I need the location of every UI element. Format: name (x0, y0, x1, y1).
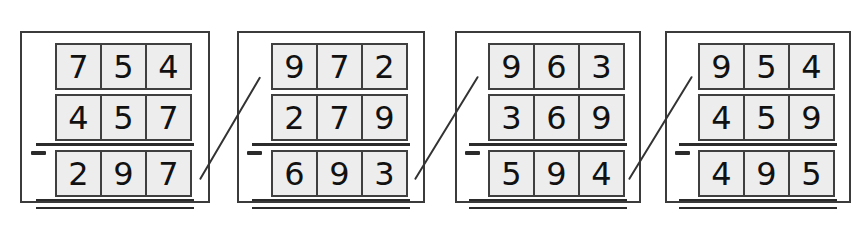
digit-cell[interactable]: 4 (698, 94, 745, 141)
subtraction-problem-3: 9 6 3 3 6 9 5 9 4 (457, 33, 639, 201)
answer-row-4: 4 9 5 (698, 150, 835, 197)
subtraction-problem-4: 9 5 4 4 5 9 4 9 5 (667, 33, 849, 201)
minus-operator-icon-3 (465, 151, 480, 155)
digit-cell[interactable]: 7 (316, 43, 363, 90)
answer-underline-2 (252, 199, 410, 209)
digit-cell[interactable]: 5 (488, 150, 535, 197)
operation-rule-3 (469, 143, 627, 146)
digit-cell[interactable]: 6 (533, 43, 580, 90)
digit-cell[interactable]: 3 (578, 43, 625, 90)
digit-cell[interactable]: 4 (578, 150, 625, 197)
answer-underline-4 (679, 199, 837, 209)
digit-cell[interactable]: 9 (361, 94, 408, 141)
digit-cell[interactable]: 7 (145, 94, 192, 141)
subtrahend-row-3: 3 6 9 (488, 94, 625, 141)
answer-underline-3 (469, 199, 627, 209)
digit-cell[interactable]: 9 (698, 43, 745, 90)
operation-rule-4 (679, 143, 837, 146)
problem-panel-3[interactable]: 9 6 3 3 6 9 5 9 4 (455, 31, 641, 203)
subtraction-problem-1: 7 5 4 4 5 7 2 9 7 (22, 33, 208, 201)
minuend-row-3: 9 6 3 (488, 43, 625, 90)
digit-cell[interactable]: 5 (788, 150, 835, 197)
minuend-row-1: 7 5 4 (55, 43, 192, 90)
minus-operator-icon-1 (31, 151, 46, 155)
digit-cell[interactable]: 4 (698, 150, 745, 197)
digit-cell[interactable]: 2 (271, 94, 318, 141)
digit-cell[interactable]: 9 (788, 94, 835, 141)
digit-cell[interactable]: 2 (361, 43, 408, 90)
minus-operator-icon-4 (675, 151, 690, 155)
digit-cell[interactable]: 9 (578, 94, 625, 141)
digit-cell[interactable]: 4 (788, 43, 835, 90)
digit-cell[interactable]: 4 (55, 94, 102, 141)
digit-cell[interactable]: 5 (100, 43, 147, 90)
subtrahend-row-2: 2 7 9 (271, 94, 408, 141)
digit-cell[interactable]: 9 (743, 150, 790, 197)
digit-cell[interactable]: 9 (100, 150, 147, 197)
digit-cell[interactable]: 3 (488, 94, 535, 141)
worksheet-canvas: 7 5 4 4 5 7 2 9 7 9 7 2 (0, 0, 861, 231)
operation-rule-2 (252, 143, 410, 146)
digit-cell[interactable]: 7 (55, 43, 102, 90)
digit-cell[interactable]: 7 (316, 94, 363, 141)
digit-cell[interactable]: 9 (533, 150, 580, 197)
minuend-row-2: 9 7 2 (271, 43, 408, 90)
digit-cell[interactable]: 5 (743, 94, 790, 141)
answer-row-1: 2 9 7 (55, 150, 192, 197)
digit-cell[interactable]: 7 (145, 150, 192, 197)
answer-row-2: 6 9 3 (271, 150, 408, 197)
digit-cell[interactable]: 5 (100, 94, 147, 141)
digit-cell[interactable]: 6 (533, 94, 580, 141)
answer-row-3: 5 9 4 (488, 150, 625, 197)
subtrahend-row-1: 4 5 7 (55, 94, 192, 141)
answer-underline-1 (36, 199, 194, 209)
operation-rule-1 (36, 143, 194, 146)
minuend-row-4: 9 5 4 (698, 43, 835, 90)
subtraction-problem-2: 9 7 2 2 7 9 6 9 3 (239, 33, 423, 201)
digit-cell[interactable]: 4 (145, 43, 192, 90)
digit-cell[interactable]: 6 (271, 150, 318, 197)
digit-cell[interactable]: 2 (55, 150, 102, 197)
digit-cell[interactable]: 9 (488, 43, 535, 90)
problem-panel-4[interactable]: 9 5 4 4 5 9 4 9 5 (665, 31, 851, 203)
digit-cell[interactable]: 9 (271, 43, 318, 90)
minus-operator-icon-2 (247, 151, 262, 155)
problem-panel-2[interactable]: 9 7 2 2 7 9 6 9 3 (237, 31, 425, 203)
digit-cell[interactable]: 3 (361, 150, 408, 197)
digit-cell[interactable]: 5 (743, 43, 790, 90)
digit-cell[interactable]: 9 (316, 150, 363, 197)
problem-panel-1[interactable]: 7 5 4 4 5 7 2 9 7 (20, 31, 210, 203)
subtrahend-row-4: 4 5 9 (698, 94, 835, 141)
